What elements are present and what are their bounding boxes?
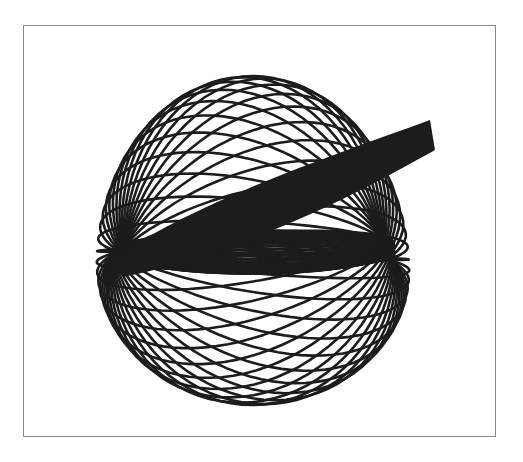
wireframe-plot: [0, 0, 523, 462]
